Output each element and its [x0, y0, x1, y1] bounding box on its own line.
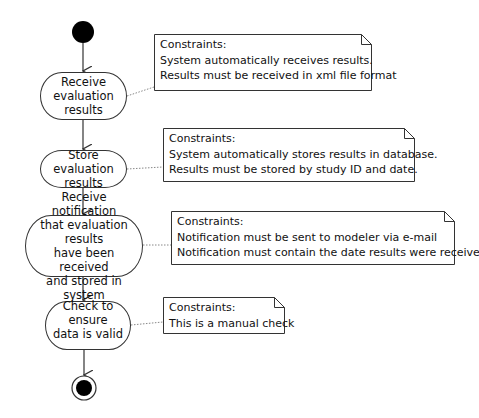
note-line: Notification must be sent to modeler via… — [177, 230, 449, 246]
note-title: Constraints: — [169, 131, 409, 147]
action-receive-evaluation-results[interactable]: Receive evaluation results — [40, 72, 127, 120]
constraint-note-check: Constraints: This is a manual check — [163, 297, 285, 334]
action-label: Store evaluation results — [43, 148, 124, 190]
note-line: This is a manual check — [169, 316, 279, 332]
note-line: Results must be stored by study ID and d… — [169, 162, 409, 178]
action-receive-notification[interactable]: Receive notification that evaluation res… — [25, 215, 143, 277]
note-line: System automatically receives results. — [160, 53, 366, 69]
note-connector — [127, 87, 154, 96]
note-connector — [131, 322, 163, 325]
action-check-data-valid[interactable]: Check to ensure data is valid — [45, 301, 131, 350]
constraint-note-receive: Constraints: System automatically receiv… — [154, 34, 372, 91]
final-node-inner — [76, 380, 92, 396]
action-label: Receive notification that evaluation res… — [28, 190, 140, 302]
note-line: Results must be received in xml file for… — [160, 68, 366, 84]
note-connector — [127, 167, 163, 169]
note-title: Constraints: — [160, 37, 366, 53]
constraint-note-notification: Constraints: Notification must be sent t… — [171, 211, 455, 265]
constraint-note-store: Constraints: System automatically stores… — [163, 128, 415, 182]
note-title: Constraints: — [177, 214, 449, 230]
note-line: Notification must contain the date resul… — [177, 245, 449, 261]
note-line: System automatically stores results in d… — [169, 147, 409, 163]
action-label: Receive evaluation results — [53, 75, 114, 117]
action-label: Check to ensure data is valid — [48, 299, 128, 341]
initial-node — [72, 21, 94, 43]
action-store-evaluation-results[interactable]: Store evaluation results — [40, 150, 127, 188]
note-title: Constraints: — [169, 300, 279, 316]
